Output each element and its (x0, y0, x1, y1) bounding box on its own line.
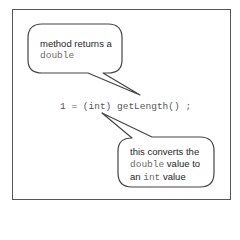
text-span: an (130, 171, 143, 182)
mono-term: int (143, 172, 160, 183)
callout-cast-explanation-text: this converts the double value to an int… (130, 146, 200, 184)
callout-line: an int value (130, 171, 200, 184)
callout-line: double value to (130, 158, 200, 171)
callout-method-returns-text: method returns a double (40, 38, 112, 62)
mono-term: double (130, 159, 164, 170)
text-span: value (160, 171, 185, 182)
callout-line-mono: double (40, 50, 112, 62)
text-span: value to (164, 158, 200, 169)
callout-line: this converts the (130, 146, 200, 158)
code-statement: 1 = (int) getLength() ; (60, 101, 191, 113)
callout-line: method returns a (40, 38, 112, 50)
